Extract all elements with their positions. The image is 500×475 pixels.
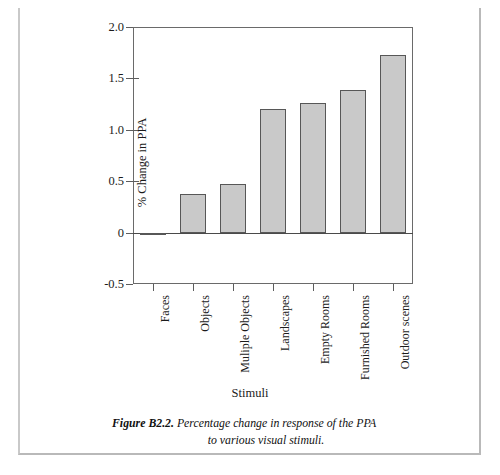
bar (340, 90, 366, 233)
y-tick-label: 2.0 (108, 20, 124, 35)
x-tick-label: Empty Rooms (318, 295, 333, 364)
x-tick-label: Faces (158, 295, 173, 322)
bar (380, 55, 406, 233)
bar (140, 233, 166, 235)
y-tick-label: -0.5 (104, 277, 124, 292)
y-tick-label: 1.5 (108, 71, 124, 86)
caption-label: Figure B2.2. (112, 416, 174, 430)
caption-text-line2: to various visual stimuli. (130, 432, 402, 449)
figure-container: 2.01.51.00.50-0.5 FacesObjectsMuliple Ob… (0, 0, 500, 475)
bar (300, 103, 326, 233)
y-tick (126, 130, 133, 131)
bar-slot (333, 27, 373, 284)
bar-slot (253, 27, 293, 284)
x-tick (353, 284, 354, 291)
bar-slot (213, 27, 253, 284)
figure-caption: Figure B2.2. Percentage change in respon… (112, 415, 402, 449)
caption-text: Percentage change in response of the PPA (177, 416, 376, 430)
bar (220, 184, 246, 232)
y-tick-label: 1.0 (108, 122, 124, 137)
x-tick-label: Muliple Objects (238, 295, 253, 373)
x-tick-label: Objects (198, 295, 213, 332)
bar (180, 194, 206, 233)
y-tick (126, 78, 133, 79)
x-tick (193, 284, 194, 291)
bar-slot (293, 27, 333, 284)
bar-series (133, 27, 413, 284)
x-tick (393, 284, 394, 291)
y-tick (126, 181, 133, 182)
x-axis-title: Stimuli (0, 386, 500, 401)
y-tick (126, 233, 133, 234)
y-axis-title: % Change in PPA (135, 118, 150, 207)
y-tick-label: 0.5 (108, 174, 124, 189)
bar-chart: 2.01.51.00.50-0.5 FacesObjectsMuliple Ob… (133, 27, 413, 284)
bar (260, 109, 286, 232)
y-tick (126, 27, 133, 28)
x-tick (233, 284, 234, 291)
bar-slot (173, 27, 213, 284)
bar-slot (373, 27, 413, 284)
x-tick-label: Outdoor scenes (398, 295, 413, 369)
x-tick-label: Furnished Rooms (358, 295, 373, 380)
x-tick (273, 284, 274, 291)
x-tick (313, 284, 314, 291)
y-tick (126, 284, 133, 285)
x-tick (153, 284, 154, 291)
y-tick-label: 0 (118, 225, 124, 240)
x-tick-label: Landscapes (278, 295, 293, 351)
